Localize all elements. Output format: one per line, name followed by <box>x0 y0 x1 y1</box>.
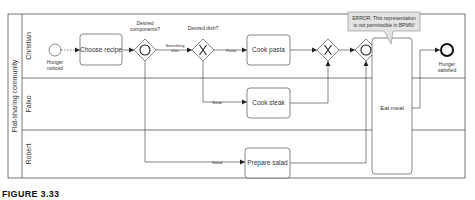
xor-gateway-split[interactable]: Desired dish? <box>188 25 219 61</box>
error-annotation-line2: is not permissible in BPMN! <box>353 22 414 28</box>
task-choose-recipe-label: Choose recipe <box>80 46 122 54</box>
lane-label-falko: Falko <box>25 95 32 112</box>
flow-label-pasta: Pasta <box>226 48 237 53</box>
xor-gateway-join[interactable] <box>317 39 339 61</box>
pool-label: Flat-sharing community <box>11 59 19 132</box>
inclusive-gateway-split[interactable]: Desired components? <box>130 20 160 61</box>
task-prepare-salad[interactable]: Prepare salad <box>245 148 290 178</box>
task-eat-meal-label: Eat meal <box>380 105 404 111</box>
task-cook-pasta[interactable]: Cook pasta <box>247 35 290 65</box>
flow-labels: Something else Pasta Steak Salad <box>165 43 236 165</box>
flow-label-salad: Salad <box>212 160 222 165</box>
task-prepare-salad-label: Prepare salad <box>247 159 288 167</box>
lane-label-robert: Robert <box>25 143 32 164</box>
xor-gateway-label: Desired dish? <box>188 25 219 31</box>
task-eat-meal[interactable]: Eat meal <box>372 38 412 174</box>
bpmn-diagram: Flat-sharing community Christian Falko R… <box>0 0 475 200</box>
flow-label-steak: Steak <box>212 100 222 105</box>
lane-label-christian: Christian <box>25 32 32 60</box>
flow-label-something-else-2: else <box>171 48 179 53</box>
end-event[interactable]: Hunger satisfied <box>438 44 457 73</box>
task-cook-steak[interactable]: Cook steak <box>247 88 290 118</box>
start-event[interactable]: Hunger noticed <box>47 44 64 71</box>
figure-caption: FIGURE 3.33 <box>2 189 59 199</box>
task-choose-recipe[interactable]: Choose recipe <box>80 34 122 65</box>
start-event-label-2: noticed <box>47 65 63 71</box>
task-cook-pasta-label: Cook pasta <box>252 46 285 54</box>
inclusive-gateway-label-2: components? <box>130 26 160 32</box>
task-cook-steak-label: Cook steak <box>252 99 285 106</box>
error-annotation-line1: ERROR: This representation <box>352 15 416 21</box>
end-event-label-2: satisfied <box>438 67 457 73</box>
